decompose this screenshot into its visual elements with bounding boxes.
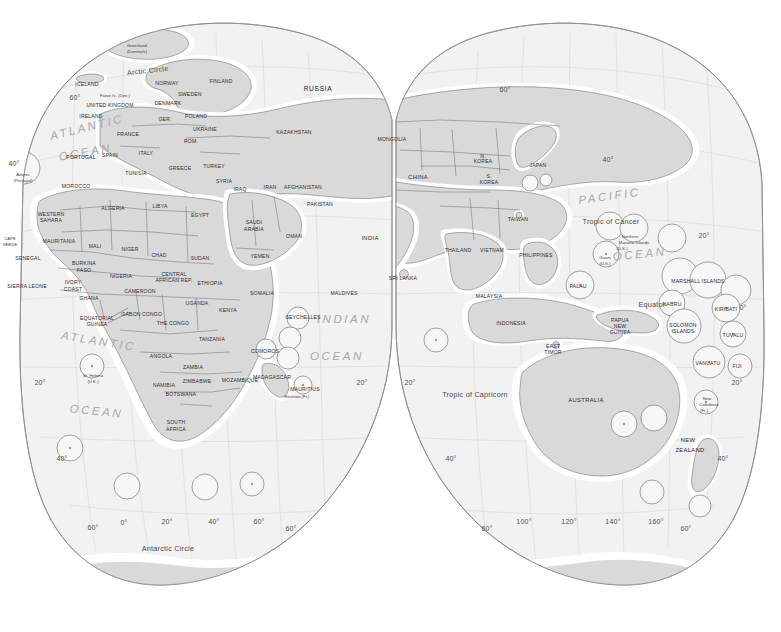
place-label: SPAIN: [102, 152, 118, 158]
place-label: KIRIBATI: [715, 306, 737, 312]
place-label: UKRAINE: [193, 126, 217, 132]
place-label: (U.S.): [616, 246, 628, 251]
lobe-eastern: [337, 23, 772, 608]
graticule-degree-label: 20°: [698, 232, 709, 239]
place-label: (U.S.): [599, 261, 611, 266]
place-label: MALAYSIA: [476, 293, 503, 299]
place-label: KAZAKHSTAN: [276, 129, 312, 135]
graticule-degree-label: 60°: [253, 518, 264, 525]
place-label: MARSHALL ISLANDS: [671, 278, 725, 284]
place-label: NORWAY: [155, 80, 179, 86]
place-label: SENEGAL: [15, 255, 40, 261]
graticule-degree-label: 40°: [56, 455, 67, 462]
place-label: NEW: [681, 437, 696, 443]
place-label: COAST: [64, 286, 82, 292]
place-label: CHAD: [151, 252, 166, 258]
place-label: BOTSWANA: [166, 391, 197, 397]
place-label: TAIWAN: [508, 216, 528, 222]
place-label: PAKISTAN: [307, 201, 333, 207]
graticule-degree-label: 120°: [561, 518, 576, 525]
place-label: AFGHANISTAN: [284, 184, 322, 190]
place-label: Guam: [599, 255, 611, 260]
reference-line-label: Tropic of Cancer: [583, 217, 640, 226]
place-label: LIBYA: [153, 203, 168, 209]
reference-line-label: Tropic of Capricorn: [442, 390, 508, 399]
place-label: VANUATU: [696, 360, 721, 366]
place-label: OMAN: [286, 233, 302, 239]
place-label: CAMEROON: [124, 288, 156, 294]
graticule-degree-label: 60°: [680, 525, 691, 532]
place-label: FIJI: [732, 363, 741, 369]
place-label: CONGO: [142, 311, 162, 317]
place-label: FRANCE: [117, 131, 139, 137]
graticule-degree-label: 20°: [356, 379, 367, 386]
graticule-degree-label: 40°: [445, 455, 456, 462]
place-label: SWEDEN: [178, 91, 202, 97]
place-label: GHANA: [79, 295, 98, 301]
place-label: MOROCCO: [62, 183, 90, 189]
place-label: THAILAND: [445, 247, 472, 253]
graticule-degree-label: 20°: [731, 379, 742, 386]
place-label: Réunion (Fr.): [284, 394, 310, 399]
place-label: GUINEA: [610, 329, 631, 335]
place-label: GREECE: [169, 165, 192, 171]
reference-line-label: Antarctic Circle: [142, 544, 194, 553]
place-label: NAMIBIA: [153, 382, 176, 388]
place-label: SOUTH: [167, 419, 186, 425]
place-label: New: [703, 396, 712, 401]
world-map-svg[interactable]: ATLANTICOCEANATLANTICOCEANINDIANOCEANPAC…: [0, 0, 781, 632]
place-label: ISLANDS: [671, 328, 694, 334]
graticule-degree-label: 40°: [8, 160, 19, 167]
place-label: TIMOR: [544, 349, 561, 355]
place-label: SOMALIA: [250, 290, 274, 296]
place-label: JAPAN: [530, 162, 547, 168]
place-label: GUINEA: [87, 321, 108, 327]
place-label: CHINA: [408, 174, 428, 180]
place-label: ARABIA: [244, 226, 264, 232]
place-label: ANGOLA: [150, 353, 173, 359]
place-label: CAPE: [4, 236, 16, 241]
place-label: ETHIOPIA: [197, 280, 223, 286]
graticule-degree-label: 60°: [87, 524, 98, 531]
place-label: VIETNAM: [480, 247, 504, 253]
place-label: IVORY: [65, 279, 82, 285]
place-label: INDIA: [361, 235, 378, 241]
place-label: NIGER: [121, 246, 138, 252]
place-label: KOREA: [474, 158, 493, 164]
graticule-degree-label: 100°: [516, 518, 531, 525]
graticule-degree-label: 20°: [404, 379, 415, 386]
place-label: AUSTRALIA: [568, 397, 603, 403]
graticule-degree-label: 60°: [285, 525, 296, 532]
place-label: PHILIPPINES: [519, 252, 553, 258]
place-label: ICELAND: [75, 81, 98, 87]
place-label: TUVALU: [723, 332, 744, 338]
place-label: POLAND: [185, 113, 207, 119]
place-label: SRI LANKA: [389, 275, 418, 281]
graticule-degree-label: 40°: [602, 156, 613, 163]
graticule-degree-label: 0°: [120, 519, 127, 526]
place-label: IRAN: [264, 184, 277, 190]
place-label: COMOROS: [251, 348, 280, 354]
place-label: MONGOLIA: [378, 136, 407, 142]
place-label: MALDIVES: [330, 290, 358, 296]
graticule-degree-label: 20°: [34, 379, 45, 386]
place-label: NAURU: [662, 301, 681, 307]
place-label: UGANDA: [186, 300, 209, 306]
place-label: KENYA: [219, 307, 237, 313]
graticule-degree-label: 40°: [208, 518, 219, 525]
place-label: GER.: [158, 116, 171, 122]
graticule-degree-label: 160°: [648, 518, 663, 525]
place-label: ZAMBIA: [183, 364, 203, 370]
place-label: SAHARA: [40, 217, 62, 223]
ocean-label: INDIAN: [317, 313, 372, 325]
place-label: THE CONGO: [157, 320, 189, 326]
graticule-degree-label: 60°: [69, 94, 80, 101]
graticule-degree-label: 0°: [739, 304, 746, 311]
place-label: MALI: [89, 243, 102, 249]
place-label: ROM.: [184, 138, 198, 144]
place-label: EGYPT: [191, 212, 209, 218]
place-label: NIGERIA: [110, 273, 133, 279]
graticule-degree-label: 40°: [717, 455, 728, 462]
place-label: Azores: [16, 172, 29, 177]
place-label: PORTUGAL: [66, 154, 95, 160]
